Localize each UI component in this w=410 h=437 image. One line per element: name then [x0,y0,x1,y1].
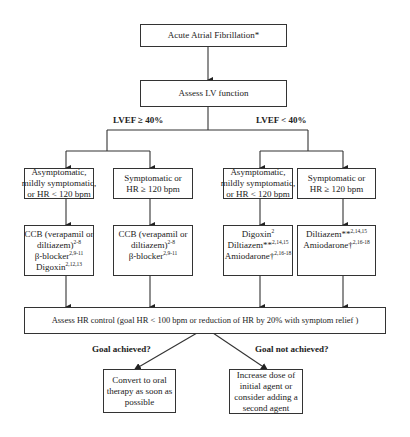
treatment-text: diltiazem) [131,240,167,250]
citation-superscript: 2,12,13 [66,261,83,267]
assess-lv-function-node: Assess LV function [140,80,287,107]
node-line: HR ≥ 120 bpm [126,184,180,195]
treatment-text: Digoxin [242,229,272,239]
assess-hr-text: Assess HR control (goal HR < 100 bpm or … [52,315,359,326]
connector-lines [0,0,410,437]
node-line: Symptomatic or [308,173,366,184]
treatment-text: Amiodarone† [303,240,353,250]
citation-superscript: 2 [271,228,274,234]
treatment-text: β-blocker [35,251,70,261]
node-line: Asymptomatic, [230,167,285,178]
lvef-low-mild-treatment-node: Digoxin2 Diltiazem**2,14,15 Amiodarone†2… [223,225,293,276]
node-line: Symptomatic or [124,173,182,184]
lvef-low-mild-node: Asymptomatic, mildly symptomatic, or HR … [223,168,293,199]
citation-superscript: 2-8 [168,239,175,245]
treatment-text: diltiazem) [37,240,73,250]
treatment-line: β-blocker2,9-11 [129,251,178,262]
citation-superscript: 2,9-11 [163,250,177,256]
node-line: HR ≥ 120 bpm [310,184,364,195]
treatment-text: CCB (verapamil or [25,229,94,239]
citation-superscript: 2,16-18 [274,250,291,256]
node-line: Asymptomatic, [31,167,86,178]
treatment-line: CCB (verapamil or [25,229,94,240]
node-line: mildly symptomatic, [22,178,97,189]
goal-achieved-label: Goal achieved? [92,344,151,354]
citation-superscript: 2,9-11 [69,250,83,256]
node-line: or HR < 120 bpm [226,189,290,200]
treatment-text: β-blocker [129,251,164,261]
lvef-low-severe-node: Symptomatic or HR ≥ 120 bpm [297,168,376,199]
assess-lv-text: Assess LV function [178,88,248,99]
treatment-line: Amiodarone†2,16-18 [225,251,291,262]
lvef-high-mild-node: Asymptomatic, mildly symptomatic, or HR … [24,168,94,199]
treatment-line: CCB (verapamil or [119,229,188,240]
treatment-text: Digoxin [36,262,66,272]
node-line: Increase dose of [237,370,295,381]
node-line: possible [125,397,155,408]
lvef-high-severe-treatment-node: CCB (verapamil or diltiazem)2-8 β-blocke… [113,225,193,276]
node-line: therapy as soon as [107,386,173,397]
treatment-text: Amiodarone† [225,251,275,261]
citation-superscript: 2,14,15 [272,239,289,245]
citation-superscript: 2,16-18 [353,239,370,245]
goal-not-achieved-label: Goal not achieved? [255,344,329,354]
start-node-acute-af: Acute Atrial Fibrillation* [140,24,287,47]
convert-oral-therapy-node: Convert to oral therapy as soon as possi… [103,369,176,413]
treatment-text: Diltiazem** [228,240,273,250]
treatment-line: Amiodarone†2,16-18 [303,240,369,251]
lvef-low-label: LVEF < 40% [256,115,306,125]
node-line: Convert to oral [112,375,167,386]
lvef-high-mild-treatment-node: CCB (verapamil or diltiazem)2-8 β-blocke… [24,225,94,276]
treatment-text: CCB (verapamil or [119,229,188,239]
lvef-high-label: LVEF ≥ 40% [113,115,163,125]
treatment-text: Diltiazem** [306,229,351,239]
increase-dose-node: Increase dose of initial agent or consid… [229,369,303,414]
citation-superscript: 2-8 [74,239,81,245]
start-node-text: Acute Atrial Fibrillation* [168,30,260,41]
assess-hr-control-node: Assess HR control (goal HR < 100 bpm or … [24,307,386,334]
node-line: initial agent or [240,381,292,392]
lvef-high-severe-node: Symptomatic or HR ≥ 120 bpm [113,168,193,199]
node-line: or HR < 120 bpm [27,189,91,200]
citation-superscript: 2,14,15 [351,228,368,234]
node-line: mildly symptomatic, [221,178,296,189]
lvef-low-severe-treatment-node: Diltiazem**2,14,15 Amiodarone†2,16-18 [297,225,376,276]
node-line: second agent [243,403,290,414]
treatment-line: Digoxin2 [242,229,274,240]
node-line: consider adding a [234,392,297,403]
treatment-line: Digoxin2,12,13 [36,262,82,273]
